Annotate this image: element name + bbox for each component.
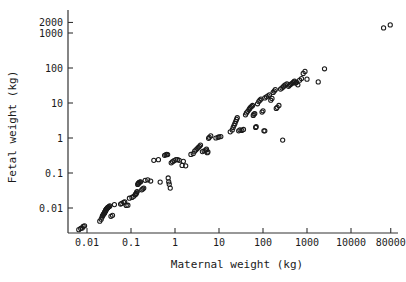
data-point	[156, 158, 160, 162]
data-point-group	[77, 23, 393, 232]
x-tick-label: 0.1	[122, 237, 140, 248]
data-point	[168, 186, 172, 190]
x-tick-label: 10	[213, 237, 225, 248]
data-point	[388, 23, 392, 27]
x-tick-label: 1	[172, 237, 178, 248]
data-point	[316, 80, 320, 84]
axis-frame	[68, 10, 398, 233]
data-point	[322, 67, 326, 71]
scatter-plot-figure: 0.010.111010010001000080000 0.010.111010…	[0, 0, 406, 282]
data-point	[152, 158, 156, 162]
data-point	[181, 159, 185, 163]
y-axis-title: Fetal weight (kg)	[6, 71, 19, 184]
y-tick-label: 0.1	[45, 168, 63, 179]
y-tick-label: 0.01	[39, 203, 63, 214]
y-tick-label: 1	[57, 133, 63, 144]
data-point	[158, 180, 162, 184]
x-tick-label: 0.01	[75, 237, 99, 248]
x-tick-label: 80000	[376, 237, 406, 248]
data-point	[381, 26, 385, 30]
x-axis-title: Maternal weight (kg)	[171, 258, 303, 271]
x-tick-label: 1000	[295, 237, 319, 248]
x-tick-label: 100	[254, 237, 272, 248]
y-tick-label: 2000	[39, 17, 63, 28]
y-tick-label: 1000	[39, 28, 63, 39]
data-point	[305, 77, 309, 81]
x-tick-label: 10000	[336, 237, 366, 248]
data-point	[281, 138, 285, 142]
y-tick-label: 100	[45, 63, 63, 74]
x-axis-ticks: 0.010.111010010001000080000	[75, 228, 406, 248]
plot-canvas: 0.010.111010010001000080000 0.010.111010…	[0, 0, 406, 282]
y-tick-label: 10	[51, 98, 63, 109]
data-point	[112, 203, 116, 207]
